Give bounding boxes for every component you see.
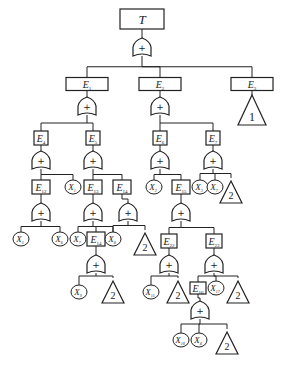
- svg-text:+: +: [196, 306, 204, 316]
- basic-event-x9: X9: [71, 285, 87, 299]
- basic-event-x8: X8: [105, 232, 121, 246]
- svg-text:+: +: [156, 156, 164, 166]
- or-gate-g14: +: [119, 203, 137, 221]
- svg-text:+: +: [177, 208, 185, 218]
- or-gate-g16: +: [191, 301, 209, 319]
- svg-text:2: 2: [111, 290, 116, 301]
- or-gate-g0: +: [133, 38, 151, 56]
- or-gate-g15: +: [172, 203, 190, 221]
- or-gate-g4: +: [32, 151, 50, 169]
- transfer-symbol-t2a: 2: [220, 181, 242, 203]
- basic-event-x3: X3: [192, 180, 208, 194]
- event-box-e12: E12: [32, 180, 50, 194]
- basic-event-x1: X1: [65, 180, 81, 194]
- svg-text:+: +: [37, 156, 45, 166]
- svg-text:+: +: [83, 102, 91, 112]
- or-gate-g1: +: [78, 97, 96, 115]
- svg-text:+: +: [156, 102, 164, 112]
- svg-text:+: +: [89, 208, 97, 218]
- event-box-e3: E3: [231, 78, 273, 92]
- event-box-e13: E13: [84, 180, 102, 194]
- tree-nodes: T+E1E2E31++E4E5E6E7++++E12X1E13E14X2E15X…: [13, 9, 273, 354]
- event-box-e22: E22: [161, 234, 177, 248]
- event-box-e23: E23: [206, 234, 222, 248]
- event-box-e4: E4: [34, 131, 48, 145]
- or-gate-g13: +: [84, 203, 102, 221]
- basic-event-x2: X2: [146, 180, 162, 194]
- or-gate-g7: +: [204, 151, 222, 169]
- or-gate-g12: +: [32, 203, 50, 221]
- or-gate-g2: +: [151, 97, 169, 115]
- svg-text:2: 2: [229, 190, 234, 201]
- transfer-symbol-t2f: 2: [216, 332, 238, 354]
- basic-event-x7: X7: [70, 232, 86, 246]
- event-box-e16: E16: [190, 282, 206, 295]
- svg-text:+: +: [92, 260, 100, 270]
- basic-event-x15: X15: [143, 285, 159, 299]
- or-gate-g5: +: [84, 151, 102, 169]
- basic-event-x6: X6: [52, 232, 68, 246]
- basic-event-x4: X4: [191, 333, 207, 347]
- event-box-e5: E5: [86, 131, 100, 145]
- svg-text:2: 2: [143, 242, 148, 253]
- svg-text:+: +: [37, 208, 45, 218]
- transfer-symbol-t1: 1: [238, 95, 266, 125]
- svg-text:1: 1: [249, 110, 255, 124]
- event-box-e14a: E14: [113, 180, 131, 194]
- fault-tree-diagram: T+E1E2E31++E4E5E6E7++++E12X1E13E14X2E15X…: [0, 0, 285, 365]
- svg-text:+: +: [89, 156, 97, 166]
- svg-text:+: +: [138, 43, 146, 53]
- event-box-e14: E14: [87, 232, 105, 246]
- event-box-e15: E15: [172, 180, 190, 194]
- basic-event-x7b: X7: [207, 180, 223, 194]
- event-box-e2: E2: [139, 78, 181, 92]
- svg-text:+: +: [165, 260, 173, 270]
- transfer-symbol-t2e: 2: [227, 281, 249, 303]
- or-gate-g23: +: [205, 255, 223, 273]
- basic-event-x5: X5: [13, 232, 29, 246]
- event-box-e1: E1: [66, 78, 108, 92]
- basic-event-x10: X10: [173, 333, 189, 347]
- event-box-e6: E6: [153, 131, 167, 145]
- svg-text:2: 2: [236, 290, 241, 301]
- svg-text:+: +: [124, 208, 132, 218]
- svg-text:+: +: [209, 156, 217, 166]
- or-gate-g6: +: [151, 151, 169, 169]
- or-gate-g14b: +: [87, 255, 105, 273]
- svg-text:T: T: [138, 12, 146, 27]
- or-gate-g22: +: [160, 255, 178, 273]
- transfer-symbol-t2b: 2: [134, 233, 156, 255]
- event-box-t: T: [120, 9, 164, 29]
- event-box-e7: E7: [206, 131, 220, 145]
- svg-text:+: +: [210, 260, 218, 270]
- basic-event-x17: X17: [208, 281, 224, 295]
- svg-text:2: 2: [225, 341, 230, 352]
- svg-text:2: 2: [176, 290, 181, 301]
- transfer-symbol-t2c: 2: [102, 281, 124, 303]
- transfer-symbol-t2d: 2: [167, 281, 189, 303]
